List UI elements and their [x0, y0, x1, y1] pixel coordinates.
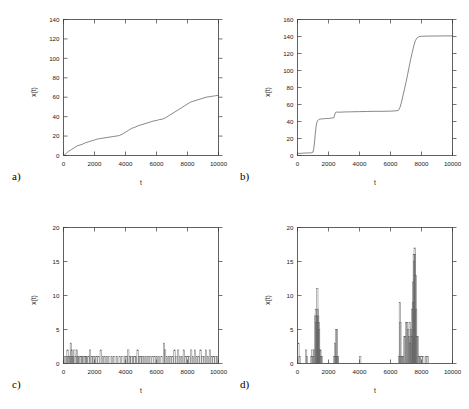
- panel-d: 05101520 0200040006000800010000 x(t) t d…: [235, 205, 469, 409]
- panel-c-bar: [185, 357, 186, 364]
- panel-d-series: [298, 248, 429, 364]
- svg-text:0: 0: [290, 152, 294, 159]
- svg-text:2000: 2000: [88, 160, 102, 167]
- svg-text:20: 20: [287, 135, 294, 142]
- panel-b: 020406080100120140160 020004000600080001…: [235, 0, 469, 205]
- panel-c-bar: [106, 357, 107, 364]
- panel-d-y-ticks: 05101520: [287, 224, 457, 367]
- panel-c-bar: [176, 357, 177, 364]
- panel-c-bar: [142, 357, 143, 364]
- panel-d-svg: 05101520 0200040006000800010000 x(t) t: [235, 205, 469, 409]
- panel-c-y-ticks: 05101520: [53, 224, 223, 367]
- svg-text:100: 100: [49, 55, 60, 62]
- panel-c-bar: [109, 357, 110, 364]
- svg-text:5: 5: [290, 326, 294, 333]
- panel-c-bar: [194, 350, 195, 364]
- panel-c-bar: [96, 357, 97, 364]
- svg-text:40: 40: [53, 113, 60, 120]
- panel-b-xlabel: t: [374, 179, 376, 186]
- svg-text:80: 80: [287, 84, 294, 91]
- panel-a-svg: 020406080100120140 020004000600080001000…: [0, 0, 235, 205]
- panel-c-x-ticks: 0200040006000800010000: [62, 228, 228, 375]
- svg-text:4000: 4000: [353, 160, 367, 167]
- panel-a: 020406080100120140 020004000600080001000…: [0, 0, 235, 205]
- panel-c-bar: [138, 357, 139, 364]
- panel-a-ylabel: x(t): [30, 87, 38, 97]
- svg-text:2000: 2000: [322, 160, 336, 167]
- panel-a-line: [64, 95, 219, 155]
- panel-c-bar: [211, 357, 212, 364]
- panel-a-y-ticks: 020406080100120140: [49, 16, 222, 159]
- svg-text:10000: 10000: [210, 160, 228, 167]
- svg-text:6000: 6000: [150, 160, 164, 167]
- panel-c-bar: [189, 357, 190, 364]
- svg-text:8000: 8000: [181, 368, 195, 375]
- panel-c-bar: [134, 357, 135, 364]
- panel-c-bar: [140, 357, 141, 364]
- panel-c-bar: [122, 357, 123, 364]
- panel-c-bar: [174, 350, 175, 364]
- svg-text:15: 15: [53, 258, 60, 265]
- panel-c-series: [65, 343, 218, 363]
- panel-c-bar: [119, 357, 120, 364]
- panel-c-bar: [114, 357, 115, 364]
- svg-text:60: 60: [287, 101, 294, 108]
- panel-d-ylabel: x(t): [264, 295, 272, 305]
- panel-c-bar: [91, 357, 92, 364]
- svg-text:120: 120: [49, 35, 60, 42]
- panel-c-bar: [178, 350, 179, 364]
- svg-text:80: 80: [53, 74, 60, 81]
- svg-text:10: 10: [53, 292, 60, 299]
- panel-c-bar: [170, 357, 171, 364]
- svg-text:8000: 8000: [415, 160, 429, 167]
- svg-text:140: 140: [283, 33, 294, 40]
- panel-c-bar: [205, 350, 206, 364]
- panel-c-bar: [135, 357, 136, 364]
- panel-c-bar: [145, 357, 146, 364]
- panel-c-bar: [147, 357, 148, 364]
- panel-d-xlabel: t: [374, 387, 376, 394]
- panel-c-bar: [90, 350, 91, 364]
- svg-text:0: 0: [296, 368, 300, 375]
- svg-text:6000: 6000: [384, 160, 398, 167]
- panel-c-xlabel: t: [140, 387, 142, 394]
- svg-text:5: 5: [56, 326, 60, 333]
- panel-c-bar: [216, 357, 217, 364]
- panel-a-x-ticks: 0200040006000800010000: [62, 20, 228, 167]
- panel-c-bar: [215, 357, 216, 364]
- panel-b-plot-group: 020406080100120140160 020004000600080001…: [264, 16, 462, 186]
- svg-text:10000: 10000: [444, 368, 462, 375]
- svg-text:6000: 6000: [150, 368, 164, 375]
- panel-c-bar: [137, 350, 138, 364]
- panel-c-bar: [192, 357, 193, 364]
- panel-c-bar: [154, 357, 155, 364]
- svg-text:10000: 10000: [444, 160, 462, 167]
- panel-b-line: [298, 36, 453, 154]
- panel-c-bar: [161, 357, 162, 364]
- panel-c-bar: [111, 357, 112, 364]
- panel-c-bar: [158, 357, 159, 364]
- panel-c-bar: [150, 357, 151, 364]
- panel-c-bar: [93, 357, 94, 364]
- panel-d-bar: [360, 357, 361, 364]
- panel-c-bar: [98, 357, 99, 364]
- panel-c-bar: [183, 350, 184, 364]
- panel-b-ylabel: x(t): [264, 87, 272, 97]
- panel-c-bar: [196, 357, 197, 364]
- svg-text:0: 0: [62, 368, 66, 375]
- panel-c-bar: [104, 357, 105, 364]
- panel-b-x-ticks: 0200040006000800010000: [296, 20, 462, 167]
- panel-c-bar: [100, 350, 101, 364]
- panel-d-bar: [427, 357, 428, 364]
- panel-c-bar: [126, 357, 127, 364]
- panel-c-bar: [132, 357, 133, 364]
- panel-d-bar: [419, 357, 420, 364]
- svg-text:6000: 6000: [384, 368, 398, 375]
- panel-d-bar: [423, 357, 424, 364]
- panel-d-frame: [298, 228, 453, 364]
- svg-text:0: 0: [56, 360, 60, 367]
- panel-c-bar: [191, 350, 192, 364]
- panel-c-bar: [129, 357, 130, 364]
- svg-text:100: 100: [283, 67, 294, 74]
- panel-c-bar: [131, 357, 132, 364]
